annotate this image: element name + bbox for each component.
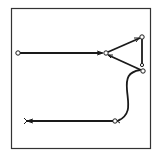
node-f bbox=[113, 119, 117, 123]
node-b bbox=[104, 51, 108, 55]
diagram-svg bbox=[0, 0, 158, 153]
node-c bbox=[140, 35, 144, 39]
edge-b-c bbox=[108, 38, 140, 52]
edge-e-f-curve bbox=[118, 70, 140, 121]
node-d bbox=[140, 63, 143, 66]
diagram-canvas bbox=[0, 0, 158, 153]
edge-b-e bbox=[108, 55, 141, 70]
node-a bbox=[16, 51, 20, 55]
node-e bbox=[141, 69, 145, 73]
diagram-frame bbox=[12, 9, 151, 149]
